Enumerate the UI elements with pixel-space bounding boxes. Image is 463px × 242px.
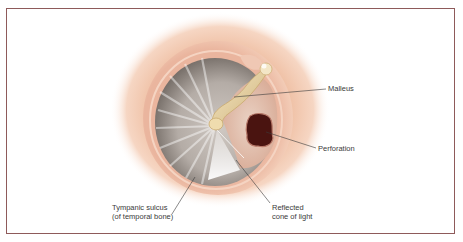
label-cone-of-light-line2: cone of light (272, 212, 312, 221)
perforation (246, 114, 273, 147)
label-malleus: Malleus (328, 84, 354, 93)
tympanic-membrane-illustration (0, 0, 463, 242)
label-tympanic-sulcus-line1: Tympanic sulcus (112, 203, 173, 212)
label-tympanic-sulcus: Tympanic sulcus (of temporal bone) (112, 203, 173, 221)
label-cone-of-light: Reflected cone of light (272, 203, 312, 221)
label-cone-of-light-line1: Reflected (272, 203, 312, 212)
label-tympanic-sulcus-line2: (of temporal bone) (112, 212, 173, 221)
label-perforation: Perforation (318, 144, 355, 153)
